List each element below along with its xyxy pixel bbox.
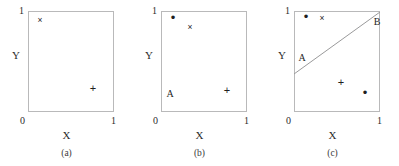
region-label-b: B (374, 17, 381, 27)
y-tick-max-b: 1 (152, 6, 157, 16)
figure-three-panel-scatter: 1 0 1 Y X × + (a) 1 0 1 Y X • × + A (b) … (0, 0, 399, 166)
panel-caption-c: (c) (266, 148, 399, 158)
data-point-cross: × (188, 23, 193, 32)
data-point-dot: • (304, 13, 309, 21)
data-point-dot: • (363, 89, 368, 97)
data-point-plus: + (338, 77, 344, 88)
panel-caption-a: (a) (0, 148, 133, 158)
panel-a: 1 0 1 Y X × + (a) (0, 0, 133, 166)
panel-c: 1 0 1 Y X • × + • A B (c) (266, 0, 399, 166)
y-axis-label-c: Y (278, 50, 286, 61)
region-label-a: A (166, 89, 173, 99)
plot-box-a (28, 11, 114, 112)
y-tick-max-c: 1 (285, 6, 290, 16)
plot-box-b (161, 11, 247, 112)
panel-caption-b: (b) (133, 148, 266, 158)
x-axis-label-a: X (0, 130, 133, 141)
x-tick-min-c: 0 (286, 116, 291, 126)
x-tick-max-c: 1 (377, 116, 382, 126)
y-tick-max-a: 1 (19, 6, 24, 16)
x-axis-label-c: X (266, 130, 399, 141)
data-point-dot: • (171, 14, 176, 22)
panel-b: 1 0 1 Y X • × + A (b) (133, 0, 266, 166)
data-point-plus: + (90, 83, 96, 94)
x-tick-min-a: 0 (20, 116, 25, 126)
x-tick-min-b: 0 (153, 116, 158, 126)
x-axis-label-b: X (133, 130, 266, 141)
x-tick-max-b: 1 (244, 116, 249, 126)
data-point-plus: + (224, 85, 230, 96)
y-axis-label-b: Y (145, 50, 153, 61)
x-tick-max-a: 1 (111, 116, 116, 126)
region-label-a: A (298, 53, 305, 63)
y-axis-label-a: Y (12, 50, 20, 61)
data-point-cross: × (320, 14, 325, 23)
data-point-cross: × (38, 16, 43, 25)
